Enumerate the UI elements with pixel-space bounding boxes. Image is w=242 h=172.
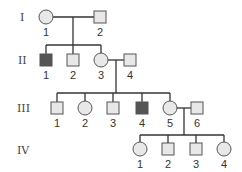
individual-iii-5-female bbox=[163, 101, 177, 115]
individual-label-iv-1: 1 bbox=[137, 158, 143, 170]
individual-ii-3-female bbox=[94, 53, 108, 67]
individual-label-ii-4: 4 bbox=[127, 69, 133, 81]
individual-label-i-2: 2 bbox=[97, 26, 103, 38]
generation-label-iv: IV bbox=[17, 144, 30, 157]
generation-label-i: I bbox=[20, 11, 24, 24]
individual-iv-4-female bbox=[217, 142, 231, 156]
individual-label-iii-2: 2 bbox=[82, 117, 88, 129]
individual-label-iv-2: 2 bbox=[165, 158, 171, 170]
individual-label-ii-2: 2 bbox=[70, 69, 76, 81]
individual-label-ii-3: 3 bbox=[98, 69, 104, 81]
individual-iv-2-male bbox=[162, 143, 174, 155]
individual-iii-4-male-affected bbox=[136, 102, 148, 114]
individual-label-iii-1: 1 bbox=[54, 117, 60, 129]
individual-iv-3-male bbox=[190, 143, 202, 155]
individual-label-iv-4: 4 bbox=[221, 158, 227, 170]
individual-label-iii-3: 3 bbox=[110, 117, 116, 129]
individual-ii-1-male-affected bbox=[40, 54, 52, 66]
mating-lines-iii bbox=[140, 108, 224, 143]
mating-lines-i bbox=[46, 17, 101, 54]
individual-i-1-female bbox=[39, 10, 53, 24]
individual-ii-2-male bbox=[67, 54, 79, 66]
individual-label-iv-3: 3 bbox=[193, 158, 199, 170]
individual-label-i-1: 1 bbox=[43, 26, 49, 38]
individual-iii-6-male bbox=[191, 102, 203, 114]
individual-iii-2-female bbox=[78, 101, 92, 115]
individual-label-iii-5: 5 bbox=[167, 117, 173, 129]
generation-label-ii: II bbox=[18, 54, 27, 67]
pedigree-chart: I II III IV 1 2 1 2 3 bbox=[0, 0, 242, 172]
individual-ii-4-male bbox=[124, 54, 136, 66]
individual-label-iii-4: 4 bbox=[139, 117, 145, 129]
individual-label-iii-6: 6 bbox=[194, 117, 200, 129]
individual-iii-3-male bbox=[107, 102, 119, 114]
individual-label-ii-1: 1 bbox=[43, 69, 49, 81]
individual-i-2-male bbox=[94, 11, 106, 23]
individual-iv-1-female bbox=[133, 142, 147, 156]
generation-label-iii: III bbox=[17, 102, 30, 115]
individual-iii-1-male bbox=[51, 102, 63, 114]
